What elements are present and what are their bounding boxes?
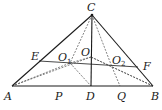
- label-O2: O: [112, 54, 121, 67]
- segment-CD: [91, 15, 92, 86]
- label-O1: O: [58, 51, 67, 64]
- segment-AO1: [12, 63, 70, 86]
- segment-AO: [12, 57, 91, 86]
- label-O2-subscript: 2: [121, 60, 125, 68]
- label-O: O: [81, 46, 90, 59]
- segment-BC: [92, 15, 153, 86]
- geometry-diagram: C A B D P Q E F O O 1 O 2: [0, 0, 162, 110]
- label-A: A: [3, 90, 12, 103]
- label-Q: Q: [117, 90, 126, 103]
- label-F: F: [142, 60, 151, 73]
- segment-AC: [12, 15, 92, 86]
- label-B: B: [150, 90, 159, 103]
- segment-O1D: [70, 63, 91, 86]
- label-P: P: [54, 90, 63, 103]
- vertex-C-dot: [91, 14, 94, 17]
- label-C: C: [87, 1, 96, 14]
- label-E: E: [30, 50, 39, 63]
- triangle-figure: C A B D P Q E F O O 1 O 2: [0, 0, 162, 110]
- label-O1-subscript: 1: [67, 58, 71, 66]
- label-D: D: [85, 90, 95, 103]
